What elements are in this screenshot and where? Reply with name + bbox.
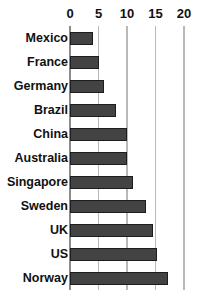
bar-australia [70, 152, 127, 165]
bar-row: Singapore [0, 170, 204, 194]
category-label-norway: Norway [23, 266, 68, 290]
bar-row: China [0, 122, 204, 146]
category-label-sweden: Sweden [21, 194, 68, 218]
bar-row: Australia [0, 146, 204, 170]
bar-singapore [70, 176, 133, 189]
x-tick-label-15: 15 [148, 7, 162, 21]
bar-norway [70, 272, 168, 285]
bar-row: Norway [0, 266, 204, 290]
bar-sweden [70, 200, 146, 213]
x-tick-label-5: 5 [95, 7, 102, 21]
category-label-brazil: Brazil [34, 98, 68, 122]
bar-rows: MexicoFranceGermanyBrazilChinaAustraliaS… [0, 26, 204, 290]
x-tick-label-20: 20 [177, 7, 191, 21]
bar-row: Mexico [0, 26, 204, 50]
category-label-china: China [33, 122, 68, 146]
category-label-uk: UK [50, 218, 68, 242]
bar-brazil [70, 104, 116, 117]
bar-china [70, 128, 127, 141]
bar-mexico [70, 32, 93, 45]
category-label-france: France [27, 50, 68, 74]
x-tick-label-0: 0 [66, 7, 73, 21]
category-label-australia: Australia [15, 146, 69, 170]
category-label-singapore: Singapore [7, 170, 68, 194]
x-tick-label-10: 10 [120, 7, 134, 21]
category-label-germany: Germany [14, 74, 68, 98]
bar-row: Brazil [0, 98, 204, 122]
bar-france [70, 56, 99, 69]
bar-uk [70, 224, 153, 237]
horizontal-bar-chart: 05101520 MexicoFranceGermanyBrazilChinaA… [0, 0, 204, 290]
bar-row: Germany [0, 74, 204, 98]
bar-row: France [0, 50, 204, 74]
bar-germany [70, 80, 104, 93]
category-label-mexico: Mexico [26, 26, 68, 50]
x-axis: 05101520 [0, 0, 204, 26]
category-label-us: US [51, 242, 68, 266]
bar-us [70, 248, 157, 261]
bar-row: US [0, 242, 204, 266]
bar-row: UK [0, 218, 204, 242]
bar-row: Sweden [0, 194, 204, 218]
plot-area: MexicoFranceGermanyBrazilChinaAustraliaS… [0, 26, 204, 290]
